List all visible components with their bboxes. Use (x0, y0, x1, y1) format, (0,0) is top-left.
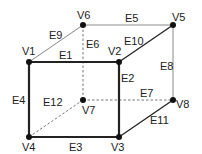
vertex-v1 (26, 59, 32, 65)
edge-label-e8: E8 (160, 60, 173, 72)
vertex-v2 (116, 59, 122, 65)
vertex-label-v6: V6 (77, 9, 90, 21)
edge-label-e3: E3 (69, 141, 82, 153)
vertex-label-v2: V2 (108, 45, 121, 57)
edge-label-e7: E7 (140, 87, 153, 99)
vertex-v3 (116, 134, 122, 140)
vertex-label-v8: V8 (176, 98, 189, 110)
edge-label-e2: E2 (121, 72, 134, 84)
edge-label-e6: E6 (86, 38, 99, 50)
labels-layer: E6E7E12E5E8E9E10E11E1E2E3E4V1V2V3V4V5V6V… (12, 9, 189, 153)
vertex-label-v1: V1 (22, 45, 35, 57)
edge-label-e9: E9 (49, 29, 62, 41)
edge-label-e1: E1 (59, 49, 72, 61)
vertex-label-v5: V5 (172, 11, 185, 23)
vertex-v4 (26, 134, 32, 140)
cube-diagram: E6E7E12E5E8E9E10E11E1E2E3E4V1V2V3V4V5V6V… (0, 0, 202, 154)
vertex-v6 (80, 22, 86, 28)
edge-label-e10: E10 (124, 35, 144, 47)
vertex-label-v7: V7 (82, 104, 95, 116)
edge-label-e5: E5 (125, 12, 138, 24)
edge-label-e4: E4 (12, 94, 25, 106)
edge-label-e12: E12 (43, 96, 63, 108)
vertex-label-v4: V4 (22, 141, 35, 153)
vertex-label-v3: V3 (111, 141, 124, 153)
vertex-v7 (80, 97, 86, 103)
edge-label-e11: E11 (150, 114, 169, 126)
